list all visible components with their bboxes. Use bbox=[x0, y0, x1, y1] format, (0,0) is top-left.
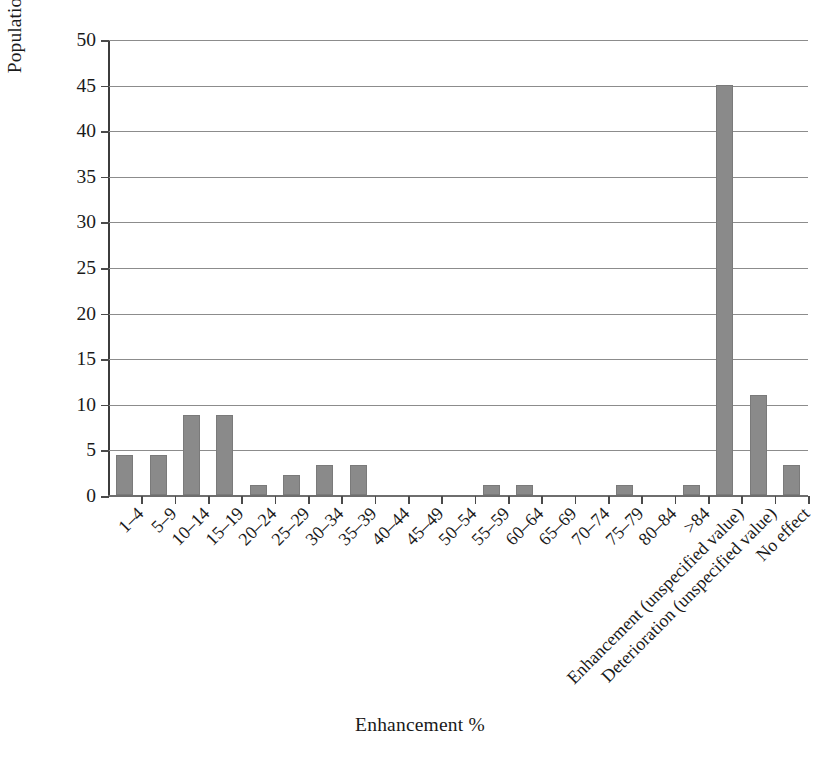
bar bbox=[216, 415, 233, 495]
y-tick-mark bbox=[101, 496, 109, 498]
bar bbox=[516, 485, 533, 495]
y-tick-label: 5 bbox=[86, 441, 96, 461]
bar bbox=[116, 455, 133, 495]
bar bbox=[483, 485, 500, 495]
x-tick-mark bbox=[741, 496, 743, 504]
x-tick-mark bbox=[375, 496, 377, 504]
x-tick-label: 60–64 bbox=[502, 504, 547, 549]
bar bbox=[616, 485, 633, 495]
x-tick-mark bbox=[675, 496, 677, 504]
x-tick-label: 55–59 bbox=[469, 504, 514, 549]
x-tick-mark bbox=[575, 496, 577, 504]
x-tick-label: 45–49 bbox=[402, 504, 447, 549]
x-tick-label: 20–24 bbox=[235, 504, 280, 549]
y-tick-label: 10 bbox=[77, 395, 97, 415]
bar bbox=[683, 485, 700, 495]
x-tick-label: 15–19 bbox=[202, 504, 247, 549]
x-tick-label: 25–29 bbox=[269, 504, 314, 549]
y-tick-label: 35 bbox=[77, 167, 97, 187]
x-tick-label: 30–34 bbox=[302, 504, 347, 549]
x-tick-mark bbox=[141, 496, 143, 504]
bar bbox=[250, 485, 267, 495]
x-tick-label: 40–44 bbox=[369, 504, 414, 549]
x-tick-mark bbox=[341, 496, 343, 504]
y-tick-label: 30 bbox=[77, 213, 97, 233]
x-tick-mark bbox=[608, 496, 610, 504]
plot-area: 05101520253035404550 bbox=[108, 40, 808, 496]
x-tick-label: 50–54 bbox=[435, 504, 480, 549]
bar bbox=[316, 465, 333, 495]
bar bbox=[783, 465, 800, 495]
x-tick-label: 70–74 bbox=[569, 504, 614, 549]
bar bbox=[283, 475, 300, 495]
x-tick-mark bbox=[708, 496, 710, 504]
x-tick-label: 80–84 bbox=[635, 504, 680, 549]
x-tick-label: 1–4 bbox=[115, 504, 147, 536]
x-tick-mark bbox=[641, 496, 643, 504]
y-tick-label: 50 bbox=[77, 30, 97, 50]
x-tick-mark bbox=[241, 496, 243, 504]
x-axis-labels-group: 1–45–910–1415–1920–2425–2930–3435–3940–4… bbox=[108, 504, 840, 704]
x-tick-mark bbox=[408, 496, 410, 504]
bar bbox=[750, 395, 767, 495]
bar bbox=[150, 455, 167, 495]
x-tick-label: 65–69 bbox=[535, 504, 580, 549]
x-tick-mark bbox=[508, 496, 510, 504]
x-tick-mark bbox=[475, 496, 477, 504]
bars-group bbox=[108, 40, 808, 496]
x-tick-label: 10–14 bbox=[169, 504, 214, 549]
y-tick-label: 0 bbox=[86, 486, 96, 506]
x-tick-mark bbox=[541, 496, 543, 504]
x-tick-mark bbox=[775, 496, 777, 504]
x-tick-mark bbox=[441, 496, 443, 504]
x-tick-label: 35–39 bbox=[335, 504, 380, 549]
bar bbox=[350, 465, 367, 495]
bar-chart: Population proportion (%) (out of 91 obs… bbox=[0, 0, 840, 782]
x-tick-mark bbox=[175, 496, 177, 504]
y-tick-label: 15 bbox=[77, 349, 97, 369]
y-tick-label: 40 bbox=[77, 121, 97, 141]
y-tick-label: 45 bbox=[77, 76, 97, 96]
y-axis-title: Population proportion (%) (out of 91 obs… bbox=[0, 0, 30, 100]
x-tick-mark bbox=[808, 496, 810, 504]
y-tick-label: 25 bbox=[77, 258, 97, 278]
x-tick-label: 75–79 bbox=[602, 504, 647, 549]
x-tick-mark bbox=[208, 496, 210, 504]
bar bbox=[183, 415, 200, 495]
x-axis-title: Enhancement % bbox=[0, 714, 840, 736]
bar bbox=[716, 85, 733, 495]
x-tick-mark bbox=[275, 496, 277, 504]
y-tick-label: 20 bbox=[77, 304, 97, 324]
x-tick-mark bbox=[308, 496, 310, 504]
